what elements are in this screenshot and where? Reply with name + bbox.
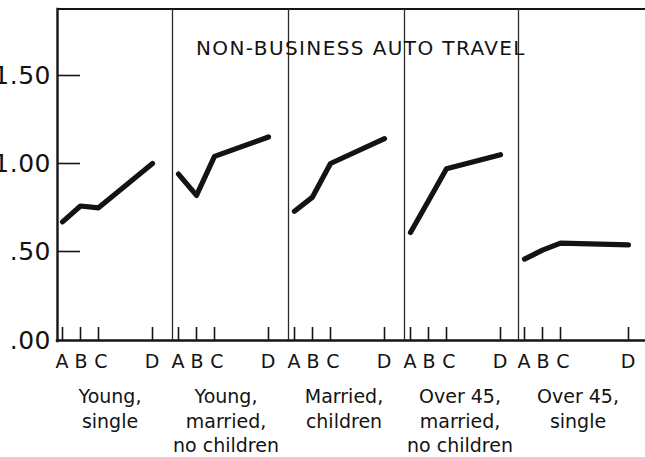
x-label-p3-a: A — [404, 350, 417, 372]
group-caption-4-line-1: Over 45, — [537, 385, 619, 407]
y-axis-label-0-00: .00 — [10, 326, 51, 355]
series-line-panel-4 — [525, 243, 629, 259]
group-caption-0-line-1: Young, — [78, 385, 142, 407]
x-label-p2-d: D — [377, 350, 392, 372]
x-label-p2-b: B — [306, 350, 319, 372]
y-axis-label-1-50: 1.50 — [0, 61, 51, 90]
series-line-panel-0 — [63, 164, 153, 222]
group-caption-0-line-2: single — [82, 410, 138, 432]
group-caption-2-line-1: Married, — [305, 385, 383, 407]
x-label-p1-d: D — [261, 350, 276, 372]
group-caption-3: Over 45, married, no children — [407, 385, 513, 456]
group-caption-4: Over 45, single — [537, 385, 619, 432]
group-caption-1-line-3: no children — [173, 434, 279, 456]
group-caption-2: Married, children — [305, 385, 383, 432]
series-line-panel-2 — [295, 139, 385, 212]
chart-plot-area: 1.50 1.00 .50 .00 NON-BUSINESS AUTO TRAV… — [0, 0, 645, 457]
x-label-p2-a: A — [288, 350, 301, 372]
x-label-p4-d: D — [621, 350, 636, 372]
x-label-p0-a: A — [56, 350, 69, 372]
x-label-p1-a: A — [172, 350, 185, 372]
x-label-p1-c: C — [210, 350, 223, 372]
chart-title: NON-BUSINESS AUTO TRAVEL — [196, 36, 526, 60]
x-label-p3-d: D — [493, 350, 508, 372]
series-line-panel-1 — [179, 137, 269, 195]
group-caption-4-line-2: single — [550, 410, 606, 432]
chart-container: 1.50 1.00 .50 .00 NON-BUSINESS AUTO TRAV… — [0, 0, 645, 457]
group-caption-3-line-3: no children — [407, 434, 513, 456]
x-label-p2-c: C — [326, 350, 339, 372]
x-label-p3-c: C — [442, 350, 455, 372]
group-caption-3-line-1: Over 45, — [419, 385, 501, 407]
group-caption-3-line-2: married, — [420, 410, 501, 432]
group-caption-1-line-1: Young, — [194, 385, 258, 407]
x-label-p3-b: B — [422, 350, 435, 372]
x-label-p0-b: B — [74, 350, 87, 372]
group-caption-1-line-2: married, — [186, 410, 267, 432]
series-line-panel-3 — [411, 155, 501, 233]
group-caption-1: Young, married, no children — [173, 385, 279, 456]
x-label-p4-c: C — [556, 350, 569, 372]
x-label-p4-a: A — [518, 350, 531, 372]
y-axis-label-1-00: 1.00 — [0, 149, 51, 178]
x-label-p1-b: B — [190, 350, 203, 372]
x-label-p0-c: C — [94, 350, 107, 372]
group-caption-2-line-2: children — [306, 410, 382, 432]
x-label-p4-b: B — [536, 350, 549, 372]
x-label-p0-d: D — [145, 350, 160, 372]
group-caption-0: Young, single — [78, 385, 142, 432]
y-axis-label-0-50: .50 — [10, 237, 51, 266]
